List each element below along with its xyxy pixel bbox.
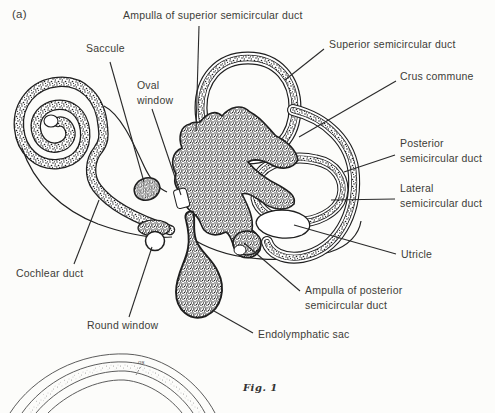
label-round-window: Round window [87,318,158,333]
label-endolymphatic-sac: Endolymphatic sac [258,327,350,342]
figure-panel: (a) Ampulla of superior semicircular duc… [0,0,495,413]
inset-figure-label: os [138,358,145,367]
label-posterior-duct: Posterior semicircular duct [400,136,492,166]
figure-caption: Fig. 1 [243,381,278,395]
label-crus-commune: Crus commune [400,69,474,84]
label-ampulla-posterior: Ampulla of posterior semicircular duct [305,283,427,313]
leader-endolymphatic-sac [214,311,253,333]
leader-round-window [129,247,152,317]
contour-upper [104,106,167,192]
label-cochlear-duct: Cochlear duct [16,266,83,281]
ampulla-posterior-shape [233,231,261,255]
leader-crus-commune [299,81,396,137]
inset-figure [10,354,215,413]
inset-arc-3 [36,371,193,413]
leader-cochlear-duct [74,200,99,264]
saccule-shape [131,174,163,204]
label-superior-duct: Superior semicircular duct [329,37,456,52]
label-saccule: Saccule [86,41,125,56]
round-window-shape [146,232,165,251]
inset-stippled-band [29,366,199,413]
label-utricle: Utricle [401,247,432,262]
inset-arc-4 [48,380,182,413]
label-oval-window: Oval window [137,78,189,108]
cochlea-apex [44,115,58,127]
label-lateral-duct: Lateral semicircular duct [400,181,492,211]
inset-outer-arc [10,354,215,413]
leader-superior-duct [285,49,324,80]
label-ampulla-superior: Ampulla of superior semicircular duct [123,8,303,23]
utricle-shape [256,210,310,238]
panel-tag: (a) [12,6,27,22]
